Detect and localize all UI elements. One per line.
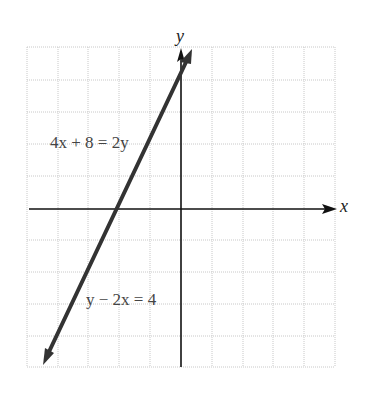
- y-axis-label: y: [176, 26, 184, 47]
- x-axis-label: x: [340, 196, 348, 217]
- coordinate-plane: [0, 0, 366, 395]
- arrowhead-down-icon: [43, 348, 54, 365]
- equation-label-2: y − 2x = 4: [86, 290, 156, 310]
- equation-label-1: 4x + 8 = 2y: [50, 133, 129, 153]
- line-y-eq-2x-plus-4: [43, 49, 192, 365]
- axes: [29, 48, 337, 367]
